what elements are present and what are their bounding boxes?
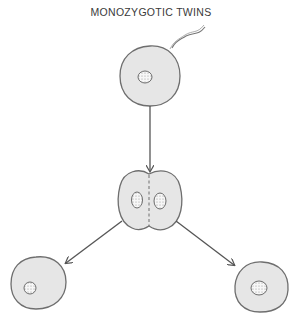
nucleus-icon xyxy=(154,193,166,209)
arrow-right xyxy=(176,221,234,265)
sperm-tail-icon xyxy=(172,27,205,48)
twin-cell-left xyxy=(11,257,66,309)
zygote-cell xyxy=(120,25,205,106)
twin-cell-right xyxy=(235,262,288,312)
nucleus-icon xyxy=(138,71,152,83)
nucleus-icon xyxy=(132,192,143,208)
arrow-left xyxy=(66,221,122,263)
diagram-canvas xyxy=(0,0,302,315)
nucleus-icon xyxy=(24,282,36,294)
two-cell-embryo xyxy=(118,171,182,230)
nucleus-icon xyxy=(251,281,267,295)
